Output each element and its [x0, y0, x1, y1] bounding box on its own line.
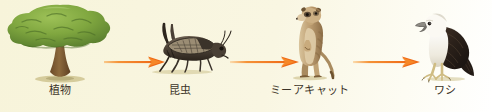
- tree-illustration: [2, 0, 118, 84]
- node-label-eagle: ワシ: [398, 84, 492, 98]
- node-label-meerkat: ミーアキャット: [260, 84, 360, 98]
- node-label-insects: 昆虫: [128, 84, 232, 98]
- food-chain-node-meerkat: ミーアキャット: [260, 0, 360, 112]
- grasshopper-illustration: [128, 0, 232, 84]
- food-chain-node-eagle: ワシ: [398, 0, 492, 112]
- food-chain-diagram: 植物: [0, 0, 492, 112]
- food-chain-node-plants: 植物: [2, 0, 118, 112]
- node-label-plants: 植物: [2, 84, 118, 98]
- meerkat-illustration: [260, 0, 360, 84]
- eagle-illustration: [398, 0, 492, 84]
- food-chain-node-insects: 昆虫: [128, 0, 232, 112]
